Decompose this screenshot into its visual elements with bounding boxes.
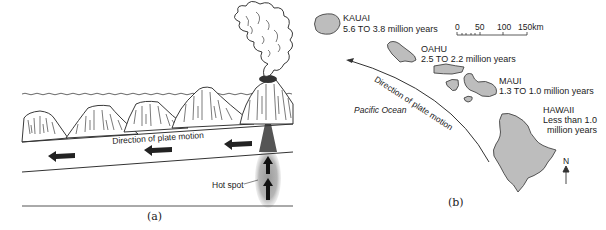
eruption-cloud [234, 1, 292, 76]
hawaii-age-line1: Less than 1.0 [543, 115, 597, 125]
island-maui [464, 74, 497, 97]
pacific-ocean-label: Pacific Ocean [354, 105, 406, 115]
island-molokai [434, 64, 464, 74]
hawaii-name: HAWAII [543, 105, 574, 115]
magma-conduit [259, 124, 277, 152]
island-lanai [446, 79, 459, 90]
plate-motion-arrowhead [346, 58, 354, 63]
volcano-1 [22, 111, 68, 142]
plate-arrow-3 [224, 139, 252, 150]
north-label: N [563, 156, 569, 166]
island-kahoolawe [464, 96, 472, 102]
scale-tick-50: 50 [475, 22, 484, 32]
cross-section-drawing [0, 0, 310, 230]
hawaii-age-line2: million years [547, 125, 597, 135]
oahu-name: OAHU [421, 44, 447, 54]
scale-tick-0: 0 [455, 22, 460, 32]
north-arrow [563, 166, 569, 184]
maui-name: MAUI [499, 76, 522, 86]
scale-tick-100: 100 [497, 22, 511, 32]
island-kauai [315, 14, 341, 34]
plate-motion-label-b: Direction of plate motion [373, 74, 455, 132]
oahu-age: 2.5 TO 2.2 million years [421, 54, 516, 64]
scale-bar [457, 32, 527, 35]
kauai-age: 5.6 TO 3.8 million years [343, 24, 438, 34]
island-oahu [387, 42, 416, 63]
scale-tick-150km: 150km [518, 22, 544, 32]
plate-arrow-1 [48, 151, 75, 162]
plate-arrow-2 [144, 145, 172, 156]
maui-age: 1.3 TO 1.0 million years [499, 86, 594, 96]
caption-b: (b) [448, 196, 464, 209]
hotspot-label: Hot spot [212, 180, 244, 190]
volcano-5-active [240, 75, 293, 124]
kauai-name: KAUAI [343, 13, 370, 23]
caption-a: (a) [147, 210, 162, 223]
